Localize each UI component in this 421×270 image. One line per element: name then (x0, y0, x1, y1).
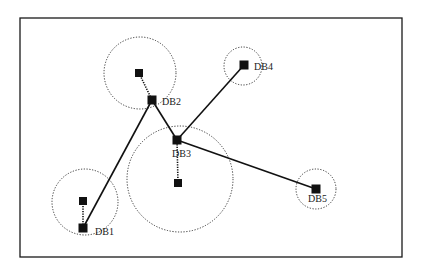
db-node-db1 (79, 224, 88, 233)
link-db1-db2 (83, 100, 152, 228)
satellite-node-db2 (135, 69, 143, 77)
db-label-db2: DB2 (162, 96, 181, 107)
network-diagram: DB1DB2DB3DB4DB5 (0, 0, 421, 270)
db-label-db3: DB3 (172, 148, 191, 159)
db-label-db5: DB5 (308, 193, 327, 204)
diagram-frame (20, 18, 402, 257)
db-label-db1: DB1 (95, 226, 114, 237)
satellite-node-db1 (79, 197, 87, 205)
db-node-db4 (240, 61, 249, 70)
satellite-link-db3 (177, 140, 178, 183)
link-db3-db5 (177, 140, 316, 189)
db-node-db2 (148, 96, 157, 105)
db-label-db4: DB4 (254, 61, 273, 72)
db-node-db3 (173, 136, 182, 145)
db-labels: DB1DB2DB3DB4DB5 (95, 61, 327, 237)
satellite-node-db3 (174, 179, 182, 187)
link-db3-db4 (177, 65, 244, 140)
db-nodes (79, 61, 321, 233)
db-links (83, 65, 316, 228)
